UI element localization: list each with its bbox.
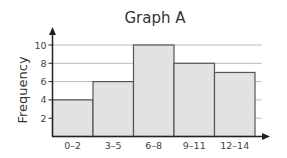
x-category-label: 3–5: [105, 140, 122, 151]
x-axis-arrow-icon: [262, 133, 270, 140]
bars: [53, 45, 256, 137]
y-tick-label: 10: [34, 40, 46, 51]
bar: [174, 63, 215, 136]
bar: [93, 82, 134, 137]
y-tick-label: 4: [40, 94, 46, 105]
y-tick-label: 2: [40, 113, 46, 124]
bar: [53, 100, 94, 137]
y-axis-arrow-icon: [49, 27, 56, 35]
bar: [215, 72, 256, 136]
y-axis-label: Frequency: [15, 56, 30, 123]
y-tick-label: 8: [40, 58, 46, 69]
x-axis-ticks: 0–23–56–89–1112–14: [64, 140, 249, 151]
y-tick-label: 6: [40, 76, 46, 87]
x-category-label: 9–11: [183, 140, 206, 151]
chart-title: Graph A: [124, 9, 186, 27]
histogram-chart: Graph A Frequency 246810 0–23–56–89–1112…: [0, 0, 287, 158]
y-axis-ticks: 246810: [34, 40, 52, 124]
x-category-label: 6–8: [145, 140, 162, 151]
x-category-label: 0–2: [64, 140, 81, 151]
bar: [134, 45, 175, 137]
x-category-label: 12–14: [220, 140, 249, 151]
